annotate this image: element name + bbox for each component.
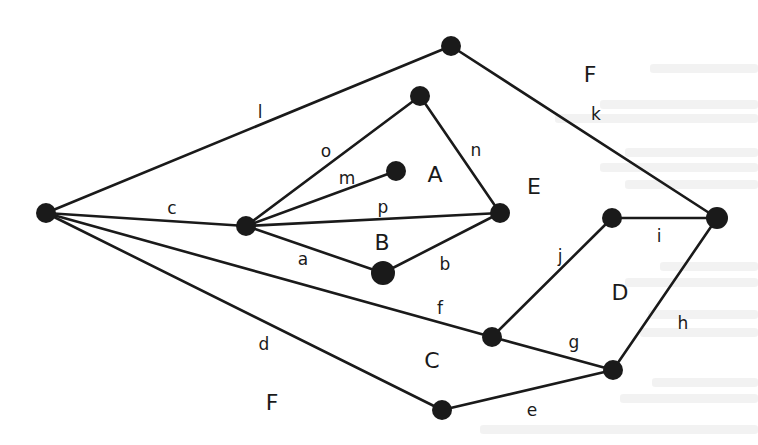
edge-label-a: a — [298, 249, 308, 269]
face-label-f: F — [266, 390, 279, 415]
edge-f — [46, 213, 492, 337]
face-label-e: E — [527, 174, 541, 199]
edge-n — [420, 96, 500, 213]
edge-label-h: h — [678, 313, 689, 333]
vertex-n4 — [410, 86, 430, 106]
edge-m — [246, 171, 396, 226]
graph-edges — [46, 46, 717, 410]
edge-label-e: e — [527, 400, 537, 420]
vertex-n2 — [236, 216, 256, 236]
vertex-n10 — [482, 327, 502, 347]
edge-label-p: p — [378, 197, 389, 217]
edge-p — [246, 213, 500, 226]
edge-label-j: j — [557, 246, 563, 266]
edge-label-i: i — [657, 226, 662, 246]
edge-label-n: n — [471, 140, 482, 160]
face-label-d: D — [612, 280, 629, 305]
edge-j — [492, 218, 612, 337]
planar-graph-diagram: lkcomnpabfdjihge FAEBDCF — [0, 0, 758, 445]
vertex-n6 — [490, 203, 510, 223]
edge-l — [46, 46, 451, 213]
vertex-n1 — [36, 203, 56, 223]
face-label-a: A — [427, 162, 442, 187]
edge-h — [613, 218, 717, 370]
edge-a — [246, 226, 383, 273]
vertex-n9 — [706, 207, 728, 229]
face-label-b: B — [374, 230, 389, 255]
edge-c — [46, 213, 246, 226]
edge-label-g: g — [569, 332, 580, 352]
edge-label-o: o — [321, 141, 331, 161]
graph-nodes — [36, 36, 728, 420]
edge-label-f: f — [437, 298, 444, 318]
edge-label-l: l — [258, 102, 263, 122]
vertex-n3 — [441, 36, 461, 56]
edge-g — [492, 337, 613, 370]
edge-label-c: c — [167, 198, 176, 218]
vertex-n11 — [603, 360, 623, 380]
vertex-n5 — [386, 161, 406, 181]
face-label-f: F — [584, 62, 597, 87]
vertex-n7 — [371, 261, 395, 285]
face-labels: FAEBDCF — [266, 62, 629, 415]
edge-label-d: d — [259, 334, 270, 354]
vertex-n8 — [602, 208, 622, 228]
edge-label-m: m — [339, 168, 356, 188]
edge-o — [246, 96, 420, 226]
face-label-c: C — [424, 348, 439, 373]
edge-label-k: k — [591, 104, 601, 124]
edge-label-b: b — [440, 254, 451, 274]
vertex-n12 — [432, 400, 452, 420]
